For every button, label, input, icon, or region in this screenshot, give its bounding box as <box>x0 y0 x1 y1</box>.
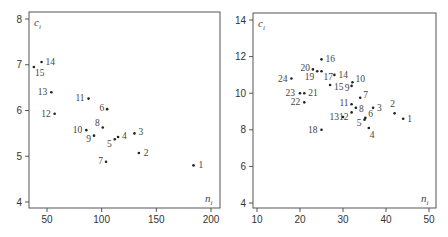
y-tick-label: 4 <box>240 198 246 209</box>
data-point <box>368 127 371 130</box>
point-label: 8 <box>359 104 364 114</box>
point-label: 11 <box>339 98 348 108</box>
point-label: 6 <box>368 109 373 119</box>
data-point <box>359 96 362 99</box>
data-point <box>351 81 354 84</box>
y-tick-label: 14 <box>235 15 247 26</box>
point-label: 2 <box>144 148 149 158</box>
data-point <box>316 70 319 73</box>
point-label: 16 <box>326 54 336 64</box>
y-axis-label: ci <box>34 16 41 31</box>
data-point <box>342 116 345 119</box>
x-tick-label: 100 <box>93 214 110 225</box>
point-label: 18 <box>308 125 318 135</box>
y-tick-label: 10 <box>235 88 247 99</box>
data-point <box>402 118 405 121</box>
point-label: 5 <box>357 118 362 128</box>
data-point <box>312 68 315 71</box>
left-scatter-panel: 5010015020045678cini12345678910111213141… <box>16 12 220 225</box>
point-label: 15 <box>334 82 344 92</box>
point-label: 13 <box>38 87 48 97</box>
y-tick-label: 8 <box>16 14 22 25</box>
point-label: 3 <box>377 103 382 113</box>
point-label: 19 <box>305 72 315 82</box>
x-tick-label: 30 <box>337 214 349 225</box>
data-point <box>355 107 358 110</box>
point-label: 7 <box>363 90 368 100</box>
y-tick-label: 5 <box>16 151 22 162</box>
data-point <box>50 91 53 94</box>
point-label: 15 <box>35 68 45 78</box>
data-point <box>53 112 56 115</box>
data-point <box>106 108 109 111</box>
x-tick-label: 150 <box>148 214 165 225</box>
figure: 5010015020045678cini12345678910111213141… <box>0 0 448 237</box>
x-axis-label: ni <box>205 192 213 207</box>
right-scatter-panel: 1020304050468101214cini12345678910111213… <box>235 13 436 225</box>
data-point <box>87 97 90 100</box>
data-point <box>320 70 323 73</box>
data-point <box>40 61 43 64</box>
point-label: 11 <box>75 93 84 103</box>
x-tick-label: 200 <box>203 214 220 225</box>
data-point <box>192 164 195 167</box>
point-label: 9 <box>86 134 91 144</box>
data-point <box>117 136 120 139</box>
point-label: 8 <box>95 118 100 128</box>
data-point <box>101 126 104 129</box>
point-label: 14 <box>338 70 348 80</box>
data-point <box>105 160 108 163</box>
point-label: 3 <box>138 127 143 137</box>
data-point <box>303 101 306 104</box>
point-label: 10 <box>355 74 365 84</box>
data-point <box>320 129 323 132</box>
data-point <box>299 92 302 95</box>
point-label: 7 <box>98 156 103 166</box>
point-label: 22 <box>291 97 301 107</box>
point-label: 5 <box>107 139 112 149</box>
point-label: 12 <box>41 109 51 119</box>
y-axis-label: ci <box>258 17 265 32</box>
y-tick-label: 7 <box>16 59 22 70</box>
data-point <box>303 92 306 95</box>
point-label: 10 <box>73 125 83 135</box>
point-label: 13 <box>330 112 340 122</box>
point-label: 4 <box>370 130 375 140</box>
data-point <box>350 85 353 88</box>
point-label: 9 <box>345 83 350 93</box>
y-tick-label: 6 <box>16 105 22 116</box>
plot-frame <box>253 13 436 208</box>
point-label: 4 <box>122 131 127 141</box>
data-point <box>329 84 332 87</box>
data-point <box>133 132 136 135</box>
data-point <box>290 77 293 80</box>
point-label: 24 <box>278 74 288 84</box>
y-tick-label: 12 <box>235 51 247 62</box>
data-point <box>333 74 336 77</box>
point-label: 20 <box>300 63 310 73</box>
data-point <box>113 138 116 141</box>
data-point <box>320 58 323 61</box>
point-label: 2 <box>390 99 395 109</box>
x-tick-label: 50 <box>423 214 435 225</box>
y-tick-label: 6 <box>240 161 246 172</box>
data-point <box>85 129 88 132</box>
data-point <box>364 117 367 120</box>
data-point <box>138 152 141 155</box>
point-label: 17 <box>324 72 334 82</box>
data-point <box>93 134 96 137</box>
point-label: 6 <box>99 103 104 113</box>
x-tick-label: 20 <box>294 214 306 225</box>
x-axis-label: ni <box>421 192 429 207</box>
data-point <box>350 103 353 106</box>
x-tick-label: 40 <box>380 214 392 225</box>
x-tick-label: 50 <box>41 214 53 225</box>
data-point <box>393 112 396 115</box>
point-label: 23 <box>286 88 296 98</box>
point-label: 1 <box>199 160 204 170</box>
point-label: 1 <box>407 114 412 124</box>
x-tick-label: 10 <box>251 214 263 225</box>
point-label: 14 <box>46 57 56 67</box>
y-tick-label: 4 <box>16 197 22 208</box>
y-tick-label: 8 <box>240 124 246 135</box>
